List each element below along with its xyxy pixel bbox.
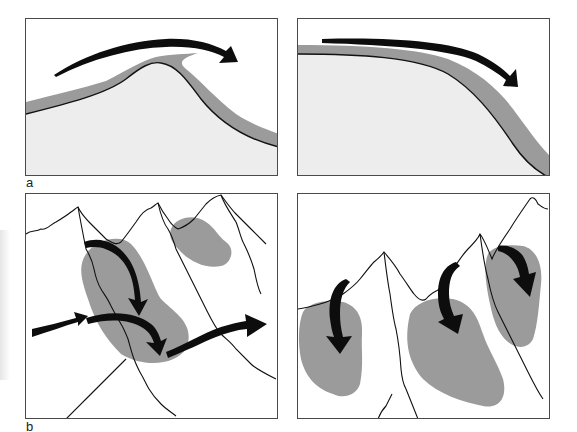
snow-patch-middle [407, 298, 504, 406]
panel-a-right [297, 18, 550, 176]
convex-slope-illustration [298, 19, 550, 176]
snow-patch-small [170, 217, 231, 266]
panel-b-left [25, 193, 278, 419]
panel-label-b: b [26, 420, 33, 432]
cross-loading-illustration [26, 194, 278, 419]
panel-b-right [297, 193, 550, 419]
wind-arrow-inbound [32, 312, 88, 337]
panel-a-left [25, 18, 278, 176]
top-loading-illustration [298, 194, 550, 419]
scan-edge-shadow [0, 230, 10, 380]
wind-arrow-middle [438, 262, 463, 334]
panel-label-a: a [26, 176, 33, 189]
ridge-cornice-illustration [26, 19, 278, 176]
